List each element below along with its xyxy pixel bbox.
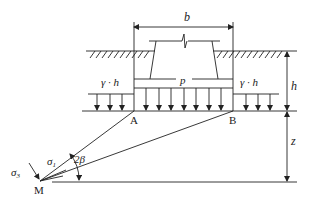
label-sigma3: σ3 — [11, 166, 20, 180]
label-angle: 2β — [74, 153, 86, 165]
label-sigma1: σ1 — [47, 155, 56, 169]
label-overburden-right: γ · h — [240, 76, 259, 88]
label-overburden-left: γ · h — [101, 76, 120, 88]
ray-ma — [40, 111, 134, 181]
foundation-diagram: b p γ · h γ · h h z A B M σ1 σ3 2β — [0, 0, 311, 204]
load-arrows-right — [246, 94, 270, 110]
label-b: b — [184, 10, 190, 24]
label-p: p — [179, 74, 186, 86]
label-m: M — [34, 184, 44, 196]
label-z: z — [290, 134, 296, 148]
label-a: A — [130, 114, 138, 126]
sigma3-arrow — [29, 163, 39, 179]
label-h: h — [291, 79, 297, 93]
load-arrows-left — [97, 94, 122, 110]
load-arrows-footing — [146, 88, 221, 110]
ground-surface — [86, 51, 297, 58]
label-b-point: B — [229, 114, 236, 126]
